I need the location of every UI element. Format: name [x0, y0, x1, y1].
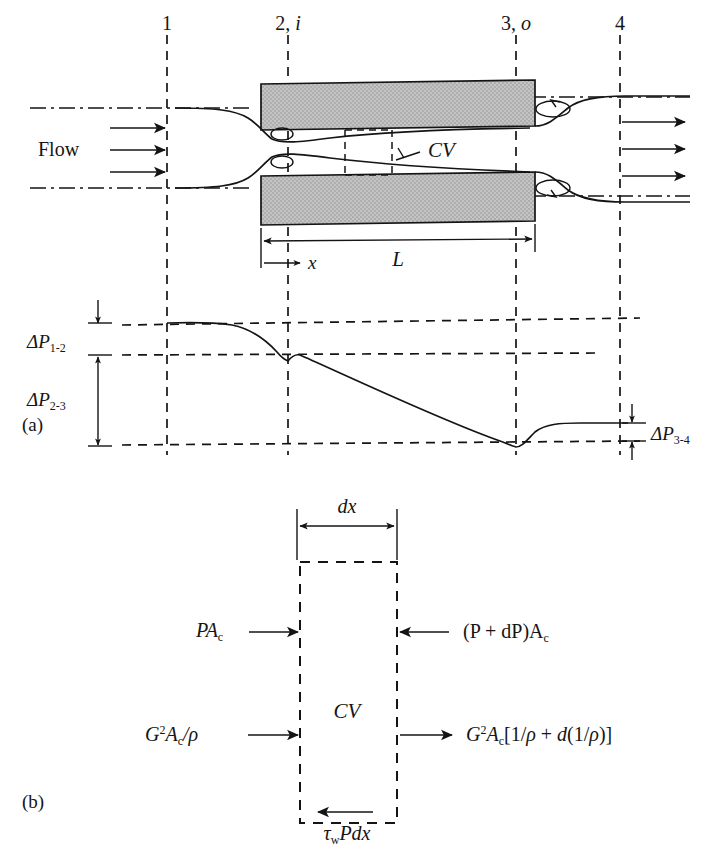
- dx-label: dx: [338, 495, 357, 517]
- station-label-1: 1: [162, 12, 172, 34]
- panel-label-a: (a): [22, 414, 43, 436]
- x-axis-label: x: [307, 252, 317, 273]
- momentum-in-label: G2Ac/ρ: [145, 723, 198, 748]
- pressure-out-label: (P + dP)Ac: [463, 620, 549, 645]
- lower-plate: [261, 172, 535, 225]
- momentum-out-label: G2Ac[1/ρ + d(1/ρ)]: [466, 723, 612, 748]
- panel-label-b: (b): [22, 791, 44, 813]
- upper-plate: [261, 80, 535, 130]
- station-label-3: 3, o: [501, 12, 531, 34]
- flow-label: Flow: [38, 138, 80, 160]
- cv-label-panel-b: CV: [334, 699, 363, 723]
- wall-shear-label: τwPdx: [324, 822, 371, 847]
- length-label: L: [391, 247, 404, 271]
- station-label-4: 4: [615, 12, 625, 34]
- station-label-2: 2, i: [275, 12, 301, 34]
- cv-label-panel-a: CV: [428, 138, 457, 162]
- figure-svg: 1 2, i 3, o 4: [0, 0, 713, 854]
- figure-root: 1 2, i 3, o 4: [0, 0, 713, 854]
